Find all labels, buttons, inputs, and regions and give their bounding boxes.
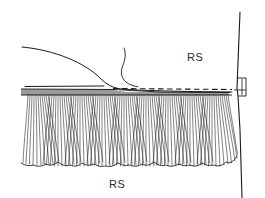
- fringe-diagram-svg: [0, 0, 265, 198]
- label-rs-upper: RS: [187, 51, 203, 63]
- label-rs-lower: RS: [109, 178, 125, 190]
- folded-hem-line: [25, 86, 104, 87]
- figure-root: RS RS: [0, 0, 265, 198]
